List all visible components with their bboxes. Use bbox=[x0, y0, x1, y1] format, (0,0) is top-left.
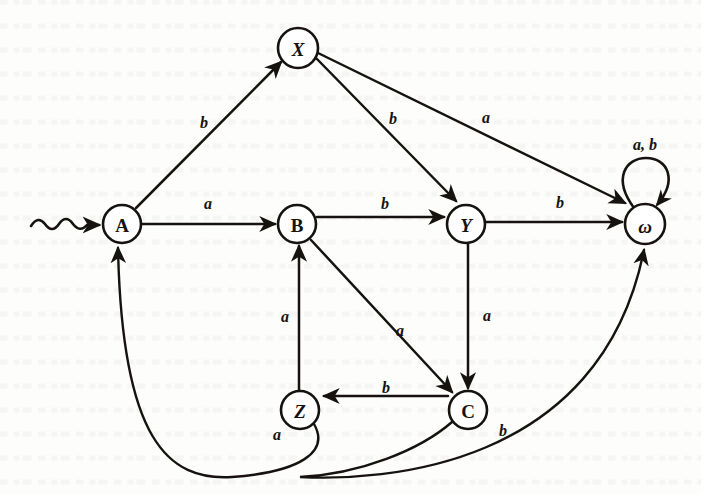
transition-Z-A: a bbox=[118, 248, 318, 477]
state-node-Y[interactable]: Y bbox=[447, 205, 485, 243]
state-B-label: B bbox=[291, 215, 304, 236]
transition-Z-A-label: a bbox=[273, 426, 281, 443]
transition-A-X-label: b bbox=[200, 114, 208, 131]
state-diagram: b a b a b a b bbox=[0, 0, 701, 494]
transition-X-Y-label: b bbox=[389, 110, 397, 127]
transition-X-W-line bbox=[318, 53, 625, 203]
transition-Z-A-curve bbox=[118, 248, 318, 477]
transition-Z-B-label: a bbox=[281, 308, 289, 325]
transition-A-X-line bbox=[136, 62, 281, 208]
state-omega-label: ω bbox=[638, 216, 652, 237]
transition-B-Y: b bbox=[317, 195, 444, 218]
transition-C-Z: b bbox=[324, 379, 448, 397]
transition-X-Y-line bbox=[316, 58, 456, 201]
state-Z-label: Z bbox=[293, 401, 306, 422]
state-node-X[interactable]: X bbox=[278, 28, 318, 68]
transition-Z-B: a bbox=[281, 246, 299, 390]
transition-X-W-label: a bbox=[482, 109, 490, 126]
start-arrow-group bbox=[31, 219, 99, 229]
transition-W-self-loop-label: a, b bbox=[633, 136, 657, 153]
transition-B-C-label: a bbox=[396, 322, 404, 339]
transition-X-W: a bbox=[318, 53, 625, 203]
scanned-figure-page: b a b a b a b bbox=[0, 0, 701, 494]
state-X-label: X bbox=[291, 39, 306, 60]
transition-C-Z-label: b bbox=[382, 379, 390, 396]
state-node-B[interactable]: B bbox=[278, 205, 316, 243]
state-C-label: C bbox=[461, 401, 475, 422]
transition-B-Y-label: b bbox=[381, 195, 389, 212]
transition-Y-W-label: b bbox=[556, 194, 564, 211]
transition-A-B-label: a bbox=[204, 195, 212, 212]
transition-A-B: a bbox=[142, 195, 275, 225]
transition-X-Y: b bbox=[316, 58, 456, 201]
squiggle-start-arrow-icon bbox=[31, 219, 99, 229]
state-node-Z[interactable]: Z bbox=[281, 391, 319, 429]
state-node-A[interactable]: A bbox=[103, 205, 141, 243]
transition-C-W-label: b bbox=[499, 422, 507, 439]
transition-Y-C: a bbox=[468, 244, 491, 388]
transition-Y-C-label: a bbox=[483, 307, 491, 324]
state-node-omega[interactable]: ω bbox=[625, 204, 665, 244]
transition-A-X: b bbox=[136, 62, 281, 208]
transition-Y-W: b bbox=[486, 194, 622, 223]
state-node-C[interactable]: C bbox=[449, 391, 487, 429]
state-A-label: A bbox=[115, 215, 129, 236]
transition-W-self-loop: a, b bbox=[623, 136, 669, 209]
transition-W-self-loop-path bbox=[623, 158, 669, 208]
transition-B-C: a bbox=[311, 240, 452, 392]
transition-B-C-line bbox=[311, 240, 452, 392]
